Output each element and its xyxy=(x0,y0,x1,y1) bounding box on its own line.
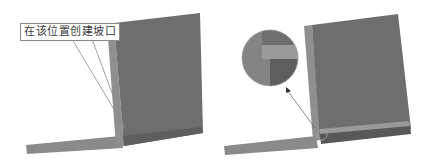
left-base-plate xyxy=(26,136,123,154)
right-plate-face xyxy=(312,14,411,140)
left-plate-face xyxy=(114,13,203,146)
right-base-plate xyxy=(224,136,318,155)
callout-label: 在该位置创建坡口 xyxy=(20,23,120,41)
right-model xyxy=(224,14,411,155)
